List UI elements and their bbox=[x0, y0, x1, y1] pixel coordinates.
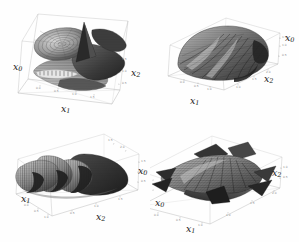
tick-label: 0.0 bbox=[36, 87, 41, 90]
axis-label-x0-bottom-right: x0 bbox=[155, 198, 165, 209]
tick-label: 0.5 bbox=[54, 90, 59, 93]
tick-label: 1.0 bbox=[198, 224, 203, 227]
axis-label-x0-bottom-left: x0 bbox=[138, 166, 148, 177]
surface-plot-top-right bbox=[150, 0, 299, 121]
tick-label: 0.5 bbox=[194, 85, 199, 88]
tick-label: 1.5 bbox=[90, 96, 95, 99]
tick-label: 1.5 bbox=[250, 202, 255, 205]
tick-label: 1.5 bbox=[122, 58, 127, 61]
tick-label: 1.0 bbox=[236, 86, 241, 89]
tick-label: 0.5 bbox=[176, 219, 181, 222]
figure-canvas: 0.0 0.5 1.0 1.5 0.5 1.0 1.5 x0 x1 x2 bbox=[0, 0, 299, 242]
tick-label: 0.5 bbox=[283, 176, 288, 179]
axis-label-x1-bottom-left: x1 bbox=[21, 194, 31, 205]
axis-label-x1-top-left: x1 bbox=[61, 104, 71, 115]
tick-label: 1.0 bbox=[122, 70, 127, 73]
tick-label: 0.5 bbox=[141, 180, 146, 183]
subplot-top-right[interactable]: 0.0 0.5 1.0 1.0 1.5 2.0 0.5 1.0 1.5 x1 x… bbox=[150, 0, 299, 121]
tick-label: 0.5 bbox=[70, 212, 75, 215]
subplot-top-left[interactable]: 0.0 0.5 1.0 1.5 0.5 1.0 1.5 x0 x1 x2 bbox=[0, 0, 149, 121]
axis-label-x0-top-left: x0 bbox=[13, 62, 23, 73]
tick-label: 1.5 bbox=[108, 139, 113, 142]
tick-label: 0.5 bbox=[282, 54, 287, 57]
subplot-bottom-right[interactable]: 0.0 0.5 1.0 1.0 1.5 2.0 0.5 1.0 x0 x1 x2 bbox=[150, 120, 299, 241]
surface-star-saddle bbox=[152, 142, 276, 204]
axis-label-x2-bottom-left: x2 bbox=[96, 212, 106, 223]
tick-label: 1.0 bbox=[72, 93, 77, 96]
tick-label: 0.0 bbox=[180, 81, 185, 84]
tick-label: 0.5 bbox=[34, 210, 39, 213]
tick-label: 2.0 bbox=[272, 192, 277, 195]
axis-label-x2-bottom-right: x2 bbox=[272, 168, 282, 179]
axis-label-x2-top-left: x2 bbox=[131, 68, 141, 79]
axis-label-x0-top-right: x0 bbox=[285, 33, 295, 44]
tick-label: 1.0 bbox=[226, 214, 231, 217]
tick-label: 1.0 bbox=[283, 166, 288, 169]
tick-label: 1.0 bbox=[207, 88, 212, 91]
tick-label: 1.5 bbox=[141, 160, 146, 163]
surface-plot-bottom-right bbox=[150, 120, 299, 241]
tick-label: 1.0 bbox=[44, 216, 49, 219]
tick-label: 0.0 bbox=[154, 214, 159, 217]
tick-label: 2.0 bbox=[120, 146, 125, 149]
tick-label: 1.5 bbox=[118, 198, 123, 201]
surface-plot-bottom-left bbox=[0, 120, 149, 241]
subplot-bottom-left[interactable]: 0.0 0.5 1.0 0.5 1.0 1.5 0.5 1.0 1.5 1.5 … bbox=[0, 120, 149, 241]
axis-label-x1-top-right: x1 bbox=[190, 96, 200, 107]
tick-label: 0.5 bbox=[122, 82, 127, 85]
axis-label-x2-top-right: x2 bbox=[264, 74, 274, 85]
tick-label: 1.5 bbox=[252, 78, 257, 81]
tick-label: 1.0 bbox=[282, 44, 287, 47]
axis-label-x1-bottom-right: x1 bbox=[186, 224, 196, 235]
tick-label: 1.0 bbox=[94, 205, 99, 208]
